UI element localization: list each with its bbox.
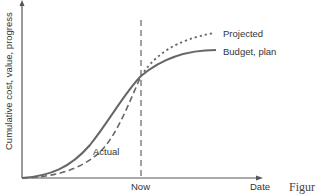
figure-caption: Figur — [289, 180, 315, 194]
actual-label: Actual — [93, 146, 119, 157]
s-curve-chart: Cumulative cost, value, progress Project… — [0, 0, 317, 196]
x-axis-label: Date — [250, 181, 270, 192]
x-axis — [22, 176, 263, 181]
now-label: Now — [131, 181, 150, 192]
projected-label: Projected — [223, 28, 263, 39]
projected-curve — [141, 33, 214, 76]
x-axis-arrow-icon — [256, 176, 263, 181]
y-axis — [20, 0, 25, 178]
y-axis-label: Cumulative cost, value, progress — [3, 12, 14, 150]
actual-curve — [22, 76, 141, 178]
budget-plan-label: Budget, plan — [223, 46, 276, 57]
y-axis-arrow-icon — [20, 0, 25, 6]
budget-plan-curve — [22, 50, 216, 178]
